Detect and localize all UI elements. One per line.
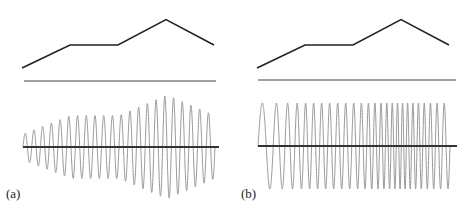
envelope-line-b [257, 20, 449, 68]
panel-label-b: (b) [241, 186, 256, 202]
panel-b [257, 20, 457, 189]
panel-label-a: (a) [6, 186, 20, 202]
panel-a [22, 20, 219, 198]
figure [0, 0, 473, 211]
envelope-line-a [22, 20, 214, 68]
